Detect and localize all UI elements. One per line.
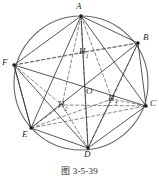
circumcircle: [14, 16, 148, 150]
h3-letter: H: [108, 93, 115, 103]
vertex-dot-c: [144, 104, 147, 107]
point-label-f: F: [2, 58, 8, 67]
h2-subscript: 2: [65, 106, 68, 112]
h1-subscript: 1: [86, 53, 89, 59]
dashed-chord-ec: [31, 106, 146, 128]
dashed-seg-f-h1: [14, 52, 83, 65]
dashed-seg-c-h2: [62, 105, 146, 106]
chord-ae: [31, 16, 81, 128]
point-label-b: B: [143, 33, 149, 42]
vertex-dot-e: [29, 126, 32, 129]
h3-subscript: 3: [115, 100, 118, 106]
h2-letter: H: [58, 99, 65, 109]
point-label-a: A: [76, 2, 82, 11]
point-label-c: C: [150, 99, 156, 108]
vertex-dot-f: [12, 63, 15, 66]
vertex-dot-a: [79, 14, 82, 17]
vertex-dot-b: [136, 41, 139, 44]
point-label-d: D: [84, 150, 91, 159]
hexagon-side-fa: [14, 16, 81, 65]
diagonal-ad: [81, 16, 88, 148]
point-label-h1: H1: [79, 47, 89, 58]
figure-caption: 图 3-5-39: [0, 164, 159, 177]
diagonal-cf: [14, 65, 146, 106]
point-label-e: E: [22, 130, 28, 139]
hexagon-side-cd: [88, 106, 146, 148]
dashed-seg-a-h2: [62, 16, 81, 105]
point-label-h3: H3: [108, 94, 118, 105]
geometry-figure: A B C D E F O H1 H2 H3 图 3-5-39: [0, 0, 159, 184]
point-label-h2: H2: [58, 100, 68, 111]
h1-letter: H: [79, 46, 86, 56]
dashed-seg-f-h2: [14, 65, 62, 105]
point-label-o: O: [86, 87, 93, 96]
